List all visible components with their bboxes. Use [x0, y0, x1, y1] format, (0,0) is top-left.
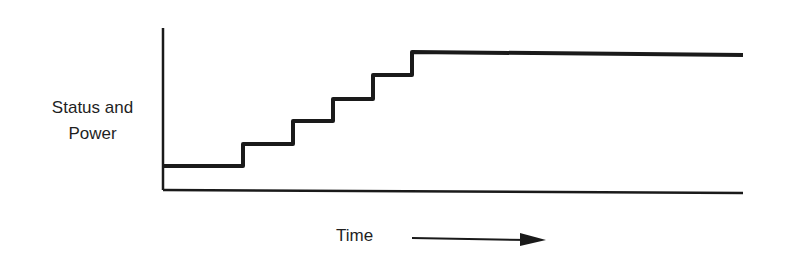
y-axis-label: Status and Power — [30, 95, 155, 147]
time-arrow-head-icon — [520, 233, 546, 246]
y-axis-label-line2: Power — [30, 121, 155, 147]
status-power-step-line — [163, 52, 743, 166]
y-axis-label-line1: Status and — [30, 95, 155, 121]
time-arrow-shaft — [412, 238, 530, 240]
x-axis-label: Time — [336, 226, 373, 246]
x-axis — [163, 190, 743, 193]
